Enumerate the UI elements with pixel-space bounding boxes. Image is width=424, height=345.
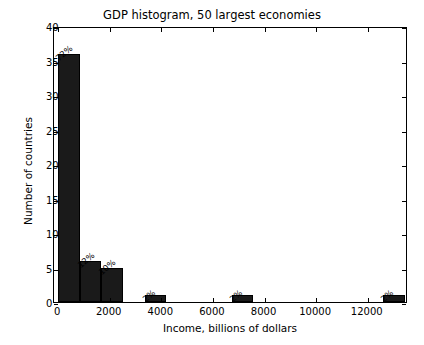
chart-page: GDP histogram, 50 largest economies 72%1… bbox=[0, 0, 424, 345]
x-axis-tick bbox=[161, 298, 162, 302]
x-axis-tick bbox=[58, 298, 59, 302]
y-axis-tick bbox=[54, 304, 58, 305]
x-tick-label: 10000 bbox=[299, 306, 331, 317]
y-axis-tick-right bbox=[402, 235, 406, 236]
x-axis-tick-top bbox=[368, 28, 369, 32]
x-axis-tick bbox=[265, 298, 266, 302]
x-axis-tick bbox=[368, 298, 369, 302]
y-axis-tick-right bbox=[402, 304, 406, 305]
x-axis-tick-top bbox=[265, 28, 266, 32]
x-axis-tick-top bbox=[110, 28, 111, 32]
x-tick-label: 12000 bbox=[351, 306, 383, 317]
y-axis-tick-right bbox=[402, 97, 406, 98]
x-tick-label: 2000 bbox=[96, 306, 121, 317]
y-axis-tick-right bbox=[402, 63, 406, 64]
y-axis-tick-right bbox=[402, 270, 406, 271]
x-axis-tick bbox=[316, 298, 317, 302]
y-axis-tick-right bbox=[402, 132, 406, 133]
y-axis-label: Number of countries bbox=[22, 81, 34, 261]
y-axis-tick-right bbox=[402, 28, 406, 29]
bars-layer: 72%12%10%2%2%2% bbox=[54, 28, 406, 302]
x-axis-tick-top bbox=[213, 28, 214, 32]
x-axis-tick-top bbox=[161, 28, 162, 32]
x-axis-tick bbox=[213, 298, 214, 302]
x-tick-label: 6000 bbox=[199, 306, 224, 317]
x-tick-label: 0 bbox=[54, 306, 60, 317]
x-axis-tick bbox=[110, 298, 111, 302]
y-axis-tick bbox=[54, 270, 58, 271]
plot-area: 72%12%10%2%2%2% bbox=[53, 27, 407, 303]
x-tick-label: 4000 bbox=[148, 306, 173, 317]
histogram-bar bbox=[58, 54, 80, 302]
x-axis-label: Income, billions of dollars bbox=[53, 322, 407, 334]
x-axis-tick-top bbox=[316, 28, 317, 32]
x-tick-label: 8000 bbox=[251, 306, 276, 317]
y-axis-tick-right bbox=[402, 201, 406, 202]
y-axis-tick-right bbox=[402, 166, 406, 167]
page-title: GDP histogram, 50 largest economies bbox=[0, 8, 424, 22]
